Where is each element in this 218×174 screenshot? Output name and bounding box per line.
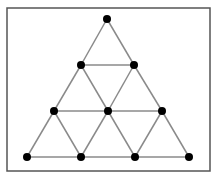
edge-n3-n6 [134, 65, 162, 111]
edge-n2-n5 [81, 65, 108, 111]
node-n6 [158, 107, 166, 115]
node-n9 [131, 153, 139, 161]
node-n8 [77, 153, 85, 161]
node-n7 [23, 153, 31, 161]
edge-n5-n9 [108, 111, 135, 157]
edge-n6-n10 [162, 111, 189, 157]
node-group [23, 15, 193, 161]
edge-n2-n4 [54, 65, 81, 111]
node-n10 [185, 153, 193, 161]
edge-n6-n9 [135, 111, 162, 157]
diagram-frame [7, 8, 210, 171]
node-n1 [103, 15, 111, 23]
node-n3 [130, 61, 138, 69]
edge-n1-n2 [81, 19, 107, 65]
edge-n1-n3 [107, 19, 134, 65]
edge-group [27, 19, 189, 157]
edge-n4-n7 [27, 111, 54, 157]
node-n2 [77, 61, 85, 69]
node-n5 [104, 107, 112, 115]
edge-n4-n8 [54, 111, 81, 157]
node-n4 [50, 107, 58, 115]
edge-n3-n5 [108, 65, 134, 111]
edge-n5-n8 [81, 111, 108, 157]
triangular-grid-diagram [0, 0, 218, 174]
